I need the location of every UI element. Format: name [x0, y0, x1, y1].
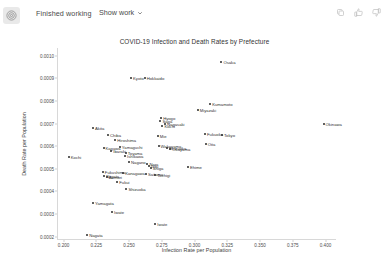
data-point	[145, 173, 147, 175]
y-tick-label: 0.0007	[40, 121, 54, 126]
data-point-label: Kyoto	[133, 76, 144, 81]
data-point-label: Oita	[208, 142, 216, 147]
show-work-label: Show work	[99, 8, 134, 17]
data-point	[103, 175, 105, 177]
y-tick-mark	[55, 146, 57, 147]
data-point	[166, 147, 168, 149]
y-tick-label: 0.0005	[40, 166, 54, 171]
data-point-label: Shiga	[153, 165, 164, 170]
show-work-button[interactable]: Show work	[99, 8, 143, 17]
data-point-label: Iwate	[114, 209, 124, 214]
data-point	[187, 166, 189, 168]
y-tick-mark	[55, 55, 57, 56]
data-point-label: Hokkaido	[147, 76, 164, 81]
y-tick-label: 0.0009	[40, 76, 54, 81]
data-point-label: Ehime	[190, 165, 202, 170]
x-tick-mark	[194, 240, 195, 242]
x-tick-mark	[63, 240, 64, 242]
y-axis-label: Death Rate per Population	[21, 112, 27, 176]
data-point-label: Yamagata	[95, 201, 114, 206]
data-point	[68, 156, 70, 158]
data-point	[154, 223, 156, 225]
data-point-label: Nagano	[131, 159, 146, 164]
y-tick-mark	[55, 236, 57, 237]
data-point-label: Osaka	[223, 59, 235, 64]
y-tick-mark	[55, 168, 57, 169]
data-point	[114, 139, 116, 141]
data-point-label: Kochi	[164, 124, 174, 129]
data-point	[92, 202, 94, 204]
status-text: Finished working	[36, 9, 92, 18]
data-point	[111, 211, 113, 213]
data-point	[103, 147, 105, 149]
assistant-spiral-icon	[3, 7, 20, 24]
x-tick-mark	[227, 240, 228, 242]
data-point	[125, 188, 127, 190]
data-point	[116, 181, 118, 183]
response-actions	[336, 8, 381, 17]
y-tick-label: 0.0010	[40, 53, 54, 58]
data-point-label: Miyazaki	[200, 107, 216, 112]
x-tick-mark	[260, 240, 261, 242]
data-point-label: Okayama	[172, 146, 190, 151]
data-point	[92, 127, 94, 129]
data-point-label: Tokyo	[224, 133, 235, 138]
x-tick-mark	[292, 240, 293, 242]
y-tick-mark	[55, 214, 57, 215]
data-point	[102, 171, 104, 173]
data-point	[144, 77, 146, 79]
data-point	[130, 77, 132, 79]
thumbs-down-icon[interactable]	[372, 8, 381, 17]
data-point	[150, 167, 152, 169]
data-point	[128, 161, 130, 163]
copy-icon[interactable]	[336, 8, 345, 17]
thumbs-up-icon[interactable]	[354, 8, 363, 17]
y-tick-label: 0.0002	[40, 234, 54, 239]
data-point	[159, 120, 161, 122]
data-point	[205, 143, 207, 145]
y-tick-label: 0.0004	[40, 189, 54, 194]
y-tick-label: 0.0003	[40, 212, 54, 217]
y-tick-label: 0.0006	[40, 144, 54, 149]
x-tick-mark	[96, 240, 97, 242]
y-tick-mark	[55, 78, 57, 79]
data-point-label: Mie	[160, 134, 167, 139]
data-point-label: Okinawa	[326, 121, 342, 126]
data-point	[161, 125, 163, 127]
chat-response-header: Finished working Show work	[0, 0, 389, 30]
data-point	[107, 134, 109, 136]
data-point	[158, 145, 160, 147]
data-point-label: Tochigi	[157, 172, 170, 177]
data-point-label: Kanagawa	[125, 170, 145, 175]
data-point	[323, 123, 325, 125]
chevron-down-icon	[137, 10, 143, 16]
data-point	[124, 155, 126, 157]
data-point-label: Akita	[95, 125, 104, 130]
chart-title: COVID-19 Infection and Death Rates by Pr…	[0, 38, 389, 45]
x-axis-spine	[57, 239, 336, 240]
data-point-label: Fukui	[119, 180, 129, 185]
data-point	[106, 176, 108, 178]
data-point-label: Iwate	[157, 222, 167, 227]
data-point	[157, 135, 159, 137]
data-point	[209, 103, 211, 105]
x-tick-mark	[325, 240, 326, 242]
data-point	[110, 150, 112, 152]
plot-area: 0.00020.00030.00040.00050.00060.00070.00…	[57, 48, 336, 240]
y-axis-spine	[57, 48, 58, 240]
data-point	[220, 61, 222, 63]
y-tick-mark	[55, 101, 57, 102]
x-axis-label: Infection Rate per Population	[57, 247, 336, 253]
data-point	[86, 234, 88, 236]
data-point-label: Nagata	[89, 233, 103, 238]
x-tick-mark	[161, 240, 162, 242]
scatter-chart-figure: COVID-19 Infection and Death Rates by Pr…	[0, 28, 389, 260]
data-point-label: Hiroshima	[117, 137, 136, 142]
data-point-label: Kochi	[71, 154, 81, 159]
y-tick-mark	[55, 191, 57, 192]
y-tick-label: 0.0008	[40, 99, 54, 104]
x-tick-mark	[129, 240, 130, 242]
data-point	[197, 109, 199, 111]
data-point-label: Shizuoka	[128, 186, 145, 191]
y-tick-mark	[55, 123, 57, 124]
